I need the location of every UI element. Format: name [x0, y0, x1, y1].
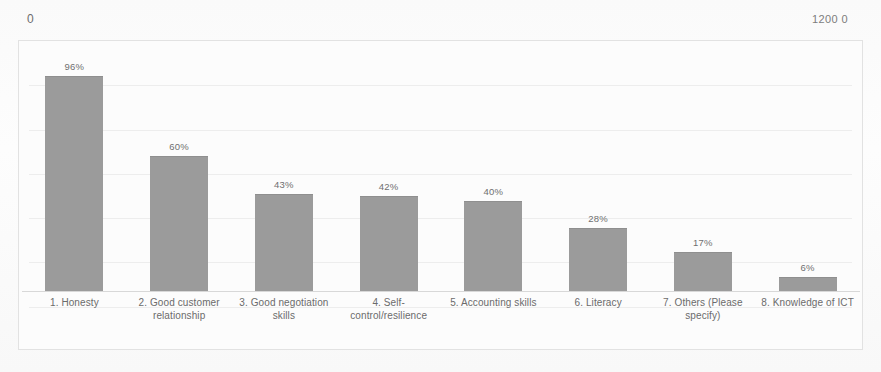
x-axis-tick-label: 7. Others (Please specify): [651, 296, 756, 322]
bar: [464, 201, 522, 291]
bar: [569, 228, 627, 291]
bar: [360, 196, 418, 291]
x-axis-tick-label: 2. Good customer relationship: [127, 296, 232, 322]
x-axis-tick-label: 6. Literacy: [546, 296, 651, 309]
bar-value-label: 96%: [65, 61, 85, 72]
bar-series: 96%60%43%42%40%28%17%6%: [22, 46, 860, 291]
x-axis-tick-label: 4. Self-control/resilience: [336, 296, 441, 322]
x-axis-tick-label: 8. Knowledge of ICT: [755, 296, 860, 309]
bar-value-label: 42%: [379, 181, 399, 192]
bar: [779, 277, 837, 291]
chart-header: 0 1200 0: [0, 0, 881, 40]
bar-value-label: 43%: [274, 179, 294, 190]
x-axis-tick-labels: 1. Honesty2. Good customer relationship3…: [22, 296, 860, 322]
bar-slot: 28%: [546, 46, 651, 291]
bar-value-label: 28%: [588, 213, 608, 224]
bar: [255, 194, 313, 291]
bar-slot: 43%: [232, 46, 337, 291]
bar-value-label: 40%: [484, 186, 504, 197]
bar-slot: 96%: [22, 46, 127, 291]
bar-value-label: 6%: [801, 262, 815, 273]
bar-value-label: 60%: [169, 141, 189, 152]
header-right-value: 1200 0: [812, 13, 848, 25]
header-left-value: 0: [27, 12, 34, 26]
x-axis-tick-label: 1. Honesty: [22, 296, 127, 309]
bar-slot: 17%: [651, 46, 756, 291]
bar-slot: 42%: [336, 46, 441, 291]
bar: [150, 156, 208, 291]
x-axis-line: [22, 291, 860, 292]
x-axis-tick-label: 5. Accounting skills: [441, 296, 546, 309]
bar-slot: 6%: [755, 46, 860, 291]
x-axis-tick-label: 3. Good negotiation skills: [232, 296, 337, 322]
bar-slot: 60%: [127, 46, 232, 291]
bar-value-label: 17%: [693, 237, 713, 248]
bar-slot: 40%: [441, 46, 546, 291]
bar: [674, 252, 732, 291]
plot-area: 96%60%43%42%40%28%17%6%: [22, 46, 860, 291]
bar: [45, 76, 103, 291]
bar-chart-figure: 0 1200 0 96%60%43%42%40%28%17%6% 1. Hone…: [0, 0, 881, 372]
